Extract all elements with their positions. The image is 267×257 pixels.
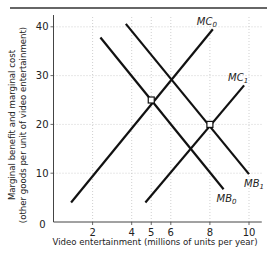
curve-label-mb0: MB0 <box>217 193 238 206</box>
y-axis-label-line1: Marginal benefit and marginal cost <box>7 49 17 200</box>
equilibrium-marker <box>148 97 154 103</box>
curve-mc1 <box>145 85 244 202</box>
y-tick-label: 40 <box>36 21 49 32</box>
equilibrium-marker <box>207 121 213 127</box>
y-tick-label: 20 <box>36 119 49 130</box>
gridlines <box>54 15 262 222</box>
curve-label-mb1: MB1 <box>244 178 264 191</box>
y-tick-label: 30 <box>36 70 49 81</box>
curve-mb0 <box>100 38 223 190</box>
tick-labels: 2456810010203040 <box>36 21 256 238</box>
curve-label-mc1: MC1 <box>228 72 248 85</box>
y-tick-label: 0 <box>39 219 45 230</box>
curve-mc0 <box>71 29 213 202</box>
x-axis-label: Video entertainment (millions of units p… <box>52 237 257 247</box>
chart: 2456810010203040 MC0MC1MB0MB1 Video ente… <box>0 0 267 257</box>
curve-labels: MC0MC1MB0MB1 <box>197 16 264 206</box>
y-axis-label-line2: (other goods per unit of video entertain… <box>18 27 28 223</box>
y-tick-label: 10 <box>36 168 49 179</box>
equilibrium-markers <box>148 97 213 127</box>
curves <box>71 24 249 203</box>
curve-label-mc0: MC0 <box>197 16 218 29</box>
